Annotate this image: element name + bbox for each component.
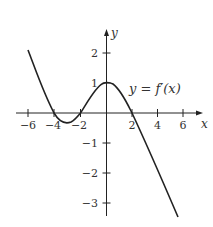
x-tick-label: 2 xyxy=(129,119,136,132)
curve-label: y = f′(x) xyxy=(128,81,181,96)
y-axis-arrow-icon xyxy=(104,29,109,36)
y-tick-label: −2 xyxy=(82,167,98,180)
y-tick-label: −1 xyxy=(82,137,98,150)
derivative-curve xyxy=(28,50,178,217)
x-tick-label: −6 xyxy=(20,119,36,132)
y-tick-label: 2 xyxy=(91,47,98,60)
x-tick-label: −4 xyxy=(45,119,61,132)
x-tick-label: 6 xyxy=(180,119,187,132)
chart: −6 −4 −2 2 4 6 2 1 −1 −2 −3 x y y = f′(x… xyxy=(0,0,213,227)
y-axis-label: y xyxy=(110,26,118,40)
x-axis-arrow-icon xyxy=(196,111,203,116)
x-tick-label: 4 xyxy=(154,119,161,132)
y-tick-label: −3 xyxy=(82,197,98,210)
x-axis-label: x xyxy=(201,117,208,131)
